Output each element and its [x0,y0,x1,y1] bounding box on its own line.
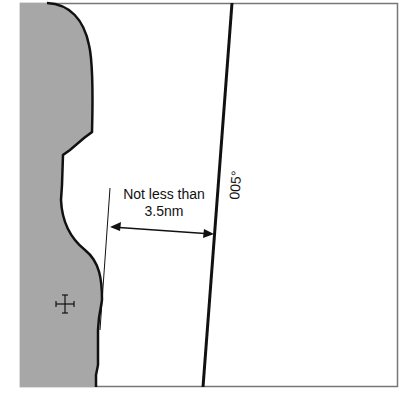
bearing-label: 005° [226,170,244,200]
distance-label-line1: Not less than [123,186,205,202]
distance-label-line2: 3.5nm [145,203,184,219]
chart-diagram: Not less than 3.5nm 005° [0,0,412,401]
